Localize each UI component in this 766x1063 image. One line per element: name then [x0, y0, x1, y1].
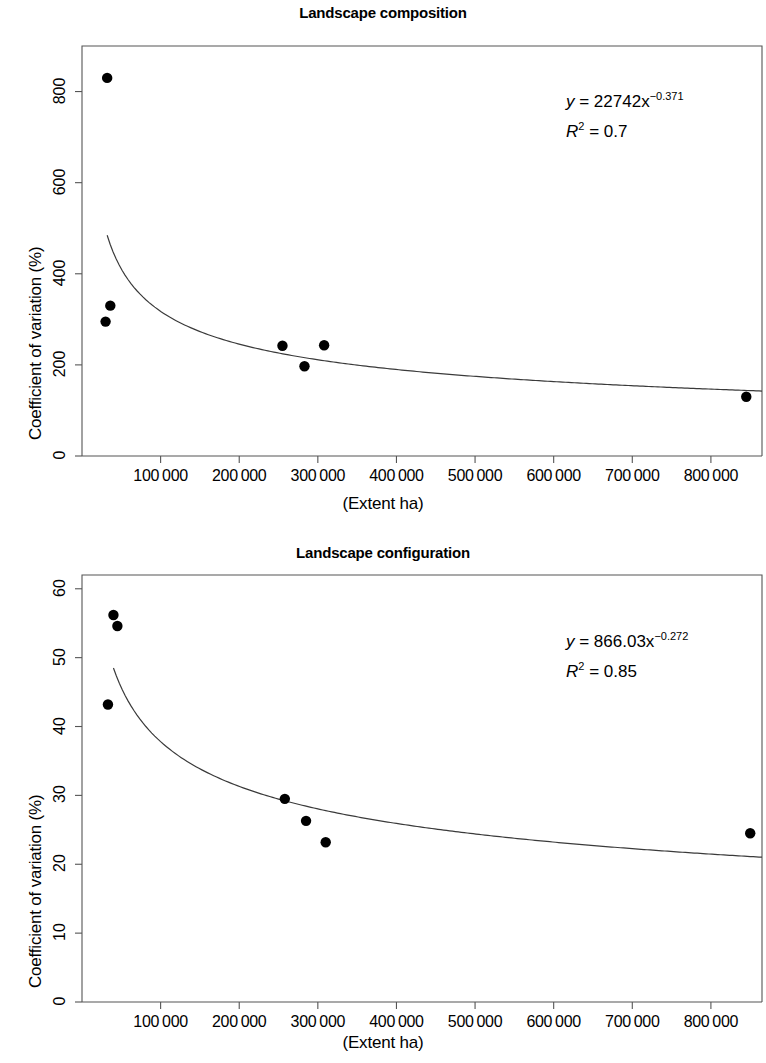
x-axis-title: (Extent ha) [0, 1033, 766, 1053]
equation-variable-y: y [566, 632, 575, 651]
data-point [745, 828, 755, 838]
regression-curve [107, 235, 762, 391]
regression-curve [113, 668, 762, 857]
plot-area-composition [0, 0, 766, 525]
data-point [277, 341, 287, 351]
equation-line: y = 866.03x−0.272 [566, 624, 688, 654]
y-tick-label: 30 [51, 764, 69, 824]
y-tick-label: 200 [51, 334, 69, 394]
data-point [102, 73, 112, 83]
r-squared-line: R2 = 0.7 [566, 114, 684, 144]
y-tick-label: 10 [51, 902, 69, 962]
x-axis-title: (Extent ha) [0, 494, 766, 514]
x-tick-label: 800 000 [661, 1013, 761, 1031]
data-point [299, 361, 309, 371]
plot-area-configuration [0, 528, 766, 1063]
data-point [108, 610, 118, 620]
data-point [105, 300, 115, 310]
r-squared-label: R [566, 121, 578, 140]
data-point [280, 794, 290, 804]
x-tick-label: 800 000 [661, 467, 761, 485]
y-tick-label: 50 [51, 627, 69, 687]
data-point [741, 392, 751, 402]
regression-annotation-configuration: y = 866.03x−0.272 R2 = 0.85 [566, 624, 688, 683]
data-point [112, 621, 122, 631]
y-tick-label: 400 [51, 243, 69, 303]
data-point [301, 816, 311, 826]
y-tick-label: 0 [51, 425, 69, 485]
equation-variable-y: y [566, 92, 575, 111]
equation-exponent: −0.272 [654, 630, 688, 642]
panel-landscape-composition: Landscape composition Coefficient of var… [0, 0, 766, 525]
y-tick-label: 20 [51, 833, 69, 893]
r-squared-value: = 0.85 [584, 661, 636, 680]
regression-annotation-composition: y = 22742x−0.371 R2 = 0.7 [566, 84, 684, 143]
data-point [321, 837, 331, 847]
y-tick-label: 800 [51, 61, 69, 121]
data-point [103, 699, 113, 709]
y-tick-label: 600 [51, 152, 69, 212]
data-point [319, 340, 329, 350]
equation-line: y = 22742x−0.371 [566, 84, 684, 114]
r-squared-value: = 0.7 [584, 121, 627, 140]
equation-exponent: −0.371 [650, 90, 684, 102]
r-squared-label: R [566, 661, 578, 680]
panel-landscape-configuration: Landscape configuration Coefficient of v… [0, 528, 766, 1063]
r-squared-line: R2 = 0.85 [566, 654, 688, 684]
y-tick-label: 60 [51, 558, 69, 618]
y-tick-label: 40 [51, 696, 69, 756]
equation-body: = 866.03x [575, 632, 655, 651]
data-point [100, 316, 110, 326]
equation-body: = 22742x [575, 92, 650, 111]
y-tick-label: 0 [51, 971, 69, 1031]
